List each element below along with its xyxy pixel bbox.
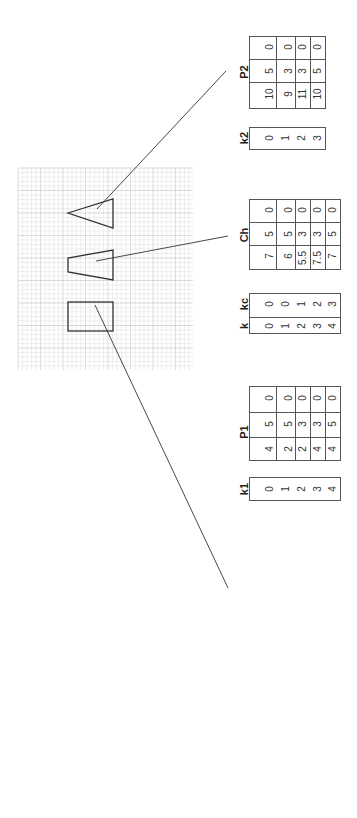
- table-cell: 3: [328, 301, 338, 307]
- table-cell: 5: [265, 231, 275, 237]
- leader-line-p1: [95, 305, 228, 588]
- table-cell: 2: [297, 135, 307, 141]
- table-cell: 0: [328, 207, 338, 213]
- table-header-ch: Ch: [239, 228, 250, 243]
- table-cell: 5: [265, 421, 275, 427]
- table-cell: 5: [284, 231, 294, 237]
- table-cell: 0: [284, 207, 294, 213]
- table-cell: 5: [284, 421, 294, 427]
- table-cell: 0: [284, 44, 294, 50]
- table-header-p2: P2: [239, 65, 250, 78]
- table-cell: 0: [313, 207, 323, 213]
- table-cell: 3: [313, 135, 323, 141]
- table-cell: 0: [265, 135, 275, 141]
- table-cell: 4: [328, 446, 338, 452]
- table-cell: 0: [265, 207, 275, 213]
- table-cell: 3: [313, 486, 323, 492]
- table-cell: 3: [313, 231, 323, 237]
- table-cell: 0: [265, 323, 275, 329]
- table-cell: 3: [313, 421, 323, 427]
- leader-line-p2: [97, 71, 226, 209]
- table-cell: 2: [284, 446, 294, 452]
- table-cell: 0: [298, 207, 308, 213]
- table-cell: 7: [265, 253, 275, 259]
- table-cell: 5: [328, 231, 338, 237]
- trapezoid-shape-ch: [68, 250, 113, 280]
- table-cell: 0: [298, 44, 308, 50]
- table-cell: 2: [313, 301, 323, 307]
- triangle-shape-p2: [68, 199, 113, 228]
- table-cell: 3: [284, 68, 294, 74]
- table-cell: 4: [313, 446, 323, 452]
- table-header-k1: k1: [239, 483, 250, 495]
- table-cell: 0: [265, 395, 275, 401]
- table-cell: 4: [328, 323, 338, 329]
- table-cell: 0: [284, 395, 294, 401]
- table-cell: 3: [313, 323, 323, 329]
- table-cell: 9: [284, 91, 294, 97]
- table-cell: 4: [328, 486, 338, 492]
- table-cell: 10: [313, 88, 323, 99]
- table-cell: 4: [265, 446, 275, 452]
- table-cell: 11: [298, 89, 308, 99]
- table-cell: 0: [281, 301, 291, 307]
- table-cell: 5: [265, 68, 275, 74]
- table-cell: 5: [328, 421, 338, 427]
- table-cell: 1: [281, 323, 291, 329]
- table-cell: 0: [265, 301, 275, 307]
- table-cell: 2: [297, 323, 307, 329]
- table-cell: 0: [298, 395, 308, 401]
- table-cell: 7: [328, 253, 338, 259]
- table-cell: 3: [298, 68, 308, 74]
- table-header-k: k: [239, 323, 250, 329]
- table-cell: 3: [298, 421, 308, 427]
- table-header-k2: k2: [239, 132, 250, 144]
- table-cell: 0: [313, 395, 323, 401]
- graph-paper-grid: [18, 168, 193, 370]
- table-cell: 2: [297, 486, 307, 492]
- table-cell: 2: [298, 446, 308, 452]
- table-cell: 0: [328, 395, 338, 401]
- table-cell: 7.5: [313, 251, 323, 265]
- table-cell: 5: [313, 68, 323, 74]
- table-cell: 1: [281, 135, 291, 141]
- table-cell: 0: [265, 44, 275, 50]
- table-cell: 0: [265, 486, 275, 492]
- table-cell: 6: [284, 253, 294, 259]
- table-cell: 1: [281, 486, 291, 492]
- table-header-kc: kc: [239, 298, 250, 310]
- table-cell: 3: [298, 231, 308, 237]
- table-header-p1: P1: [239, 425, 250, 438]
- table-cell: 0: [313, 44, 323, 50]
- table-cell: 5.5: [298, 251, 308, 265]
- table-cell: 1: [297, 301, 307, 307]
- table-cell: 10: [265, 88, 275, 99]
